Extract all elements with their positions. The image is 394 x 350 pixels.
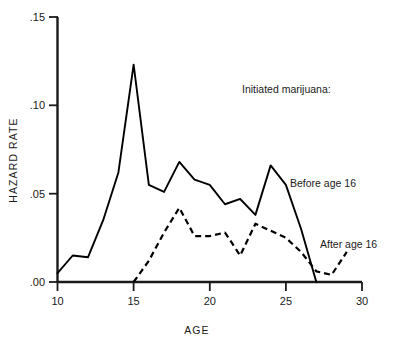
hazard-rate-chart-figure: .15 .10 .05 .00 10 15 20 25 30 AGE HAZAR… bbox=[0, 0, 394, 350]
y-tick-label-000: .00 bbox=[30, 276, 45, 288]
x-tick-label-30: 30 bbox=[356, 295, 368, 307]
y-axis-title: HAZARD RATE bbox=[7, 117, 19, 202]
x-tick-label-25: 25 bbox=[280, 295, 292, 307]
chart-svg: .15 .10 .05 .00 10 15 20 25 30 AGE HAZAR… bbox=[0, 0, 394, 350]
x-tick-label-20: 20 bbox=[204, 295, 216, 307]
y-tick-label-005: .05 bbox=[30, 188, 45, 200]
label-after-age-16: After age 16 bbox=[320, 238, 377, 250]
y-tick-label-015: .15 bbox=[30, 11, 45, 23]
y-tick-label-010: .10 bbox=[30, 99, 45, 111]
x-tick-label-15: 15 bbox=[127, 295, 139, 307]
legend-heading-label: Initiated marijuana: bbox=[242, 83, 331, 95]
x-axis-title: AGE bbox=[184, 324, 209, 336]
label-before-age-16: Before age 16 bbox=[290, 177, 356, 189]
x-tick-label-10: 10 bbox=[51, 295, 63, 307]
